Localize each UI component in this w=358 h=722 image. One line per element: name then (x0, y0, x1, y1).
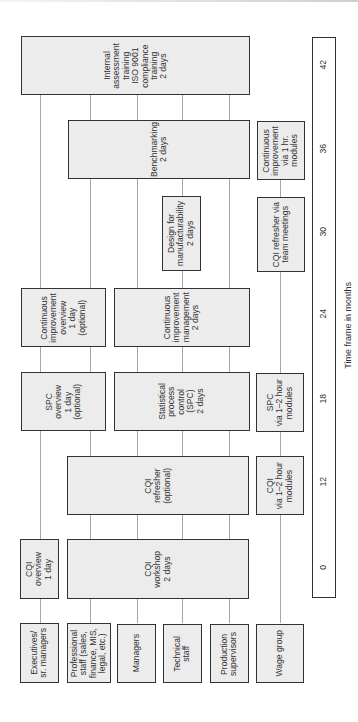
spc-training-box: Statistical process control (SPC) 2 days (114, 372, 250, 431)
cqi-refresher-box: CQI refresher (optional) (67, 456, 249, 515)
spc-training-label: Statistical process control (SPC) 2 days (158, 383, 205, 420)
group-label: Technical staff (173, 636, 192, 672)
dfm-label: Design for manufacturability 2 days (167, 201, 195, 266)
spc-overview-box: SPC overview 1 day (optional) (21, 372, 106, 431)
tick-12: 12 (318, 477, 328, 487)
tick-0: 0 (318, 565, 328, 570)
cqi-team-box: CQI refresher via team meetings (257, 197, 305, 272)
group-managers: Managers (117, 624, 156, 683)
group-label: Managers (132, 634, 141, 672)
group-label: Production supervisors (220, 632, 239, 676)
cqi-modules-label: CQI via 1–2 hour modules (266, 462, 294, 509)
spc-overview-label: SPC overview 1 day (optional) (45, 384, 83, 420)
benchmarking-label: Benchmarking 2 days (150, 122, 169, 177)
top-border (0, 0, 358, 2)
cqi-overview-box: CQI overview 1 day (20, 539, 59, 599)
dfm-box: Design for manufacturability 2 days (162, 196, 201, 271)
spc-modules-label: SPC via 1–2 hour modules (266, 379, 294, 426)
tick-18: 18 (318, 394, 328, 404)
cqi-team-label: CQI refresher via team meetings (272, 202, 291, 267)
benchmarking-box: Benchmarking 2 days (68, 120, 250, 179)
group-technical: Technical staff (163, 624, 202, 683)
cqi-modules-box: CQI via 1–2 hour modules (256, 456, 304, 515)
cqi-overview-label: CQI overview 1 day (25, 552, 53, 586)
ci-modules-box: Continuous improvement via 1 hr. modules (257, 121, 305, 180)
internal-assessment-label: Internal assessment training ISO 9001 co… (103, 43, 169, 89)
group-executives: Executives/ sr. managers (20, 623, 59, 683)
group-label: Professional staff (sales, finance, MIS,… (70, 628, 108, 678)
group-label: Executives/ sr. managers (30, 628, 49, 678)
ci-modules-label: Continuous improvement via 1 hr. modules (262, 126, 300, 176)
group-wage: Wage group (256, 624, 304, 683)
axis-label: Time frame in months (343, 282, 353, 369)
group-professional: Professional staff (sales, finance, MIS,… (67, 623, 111, 683)
ci-overview-box: Continuous improvement overview 1 day (o… (21, 288, 106, 347)
tick-42: 42 (318, 60, 328, 70)
group-label: Wage group (275, 630, 284, 677)
spc-modules-box: SPC via 1–2 hour modules (256, 373, 304, 432)
tick-30: 30 (318, 227, 328, 237)
cqi-workshop-box: CQI workshop 2 days (67, 539, 249, 599)
cqi-refresher-label: CQI refresher (optional) (144, 468, 172, 504)
ci-overview-label: Continuous improvement overview 1 day (o… (40, 293, 87, 343)
internal-assessment-box: Internal assessment training ISO 9001 co… (21, 36, 250, 95)
tick-24: 24 (318, 309, 328, 319)
group-production: Production supervisors (210, 624, 249, 683)
cqi-workshop-label: CQI workshop 2 days (144, 551, 172, 588)
ci-management-label: Continuous improvement management 2 days (163, 292, 201, 342)
ci-management-box: Continuous improvement management 2 days (114, 288, 250, 347)
tick-36: 36 (318, 144, 328, 154)
